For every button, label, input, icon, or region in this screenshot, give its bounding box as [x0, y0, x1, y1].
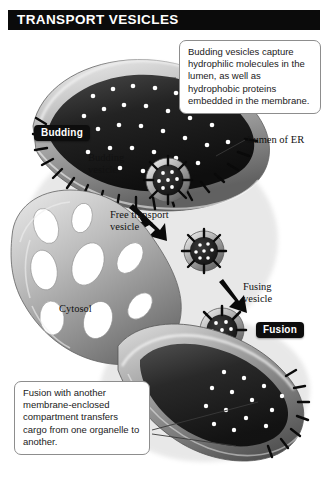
label-free-transport-vesicle: Free transport vesicle: [110, 209, 169, 232]
budding-vesicle: [144, 156, 192, 204]
label-budding-vesicle: Budding vesicle: [88, 152, 124, 175]
label-budding-vesicle-line1: Budding: [88, 152, 124, 164]
badge-budding: Budding: [34, 125, 90, 141]
callout-fusion-description: Fusion with another membrane-enclosed co…: [14, 381, 150, 455]
label-free-transport-vesicle-line1: Free transport: [110, 209, 169, 221]
figure-title-bar: TRANSPORT VESICLES: [8, 10, 320, 30]
page-title: TRANSPORT VESICLES: [17, 12, 179, 27]
label-cytosol-line1: Cytosol: [59, 303, 92, 315]
badge-fusion: Fusion: [256, 322, 304, 338]
label-lumen-of-er: Lumen of ER: [247, 134, 304, 146]
label-fusing-vesicle-line2: vesicle: [243, 293, 272, 305]
callout-budding-description: Budding vesicles capture hydrophilic mol…: [179, 40, 321, 114]
label-free-transport-vesicle-line2: vesicle: [110, 221, 169, 233]
label-lumen-line1: Lumen of ER: [247, 134, 304, 146]
free-transport-vesicle: [182, 229, 226, 273]
label-fusing-vesicle-line1: Fusing: [243, 281, 272, 293]
label-budding-vesicle-line2: vesicle: [88, 164, 124, 176]
label-cytosol: Cytosol: [59, 303, 92, 315]
label-fusing-vesicle: Fusing vesicle: [243, 281, 272, 304]
figure-root: TRANSPORT VESICLES: [0, 0, 329, 478]
